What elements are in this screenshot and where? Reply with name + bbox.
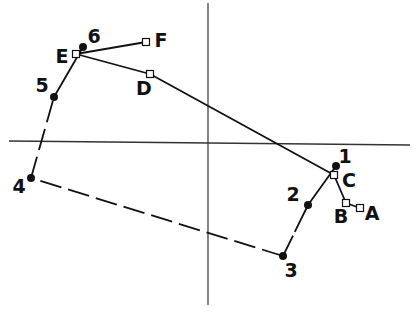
point-label-5: 5 [35,76,48,95]
point-label-6: 6 [87,27,100,46]
segment-2-3 [283,205,308,256]
diagram-canvas: 1 2 3 4 5 6 A B C D E F [0,0,418,316]
point-marker-4 [27,174,35,182]
square-marker-c [331,172,338,179]
lettered-path [76,42,360,208]
point-marker-5 [50,93,58,101]
square-marker-f [143,39,150,46]
point-marker-6 [79,43,87,51]
square-marker-a [357,205,364,212]
segment-3-4 [31,178,283,256]
lettered-polyline [76,42,360,208]
point-marker-2 [304,201,312,209]
segment-4-5 [31,97,54,178]
point-label-f: F [155,31,168,50]
point-label-c: C [342,171,356,190]
point-label-1: 1 [338,147,351,166]
point-label-d: D [136,79,152,98]
point-label-b: B [334,207,348,226]
point-label-e: E [56,47,69,66]
square-marker-e [73,51,80,58]
point-label-4: 4 [12,177,25,196]
point-label-2: 2 [286,185,299,204]
point-label-a: A [365,204,380,223]
point-label-3: 3 [284,261,297,280]
